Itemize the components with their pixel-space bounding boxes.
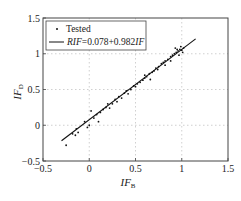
data-point [93,117,95,119]
legend-label-tested: Tested [66,24,91,34]
data-point [170,60,172,62]
data-point [109,107,111,109]
data-point [135,86,137,88]
y-tick-label: 1.5 [28,13,41,24]
data-point [127,93,129,95]
data-point [107,103,109,105]
scatter-chart: −0.500.511.5 −0.500.511.5 IFB IFD Tested… [0,0,241,201]
legend-label-fit: RIF=0.078+0.982IF [66,37,144,47]
data-point [87,126,89,128]
x-tick-label: 0.5 [129,163,142,174]
data-point [176,49,178,51]
x-tick-label: 1 [179,163,184,174]
x-tick-label: 0 [87,163,92,174]
data-point [174,47,176,49]
y-axis-label: IFD [11,84,25,100]
data-point [88,124,90,126]
x-axis-ticks: −0.500.511.5 [34,158,234,174]
y-tick-label: 0.5 [28,84,41,95]
y-tick-label: 1 [35,48,40,59]
data-point [149,79,151,81]
data-point [65,144,67,146]
data-point [178,54,180,56]
y-axis-ticks: −0.500.511.5 [22,13,46,167]
data-point [180,46,182,48]
data-point [98,121,100,123]
data-point [164,64,166,66]
data-point [90,110,92,112]
data-point [74,134,76,136]
data-point [144,74,146,76]
data-point [182,51,184,53]
legend: Tested RIF=0.078+0.982IF [46,21,146,50]
data-point [121,97,123,99]
x-tick-label: 1.5 [222,163,235,174]
legend-marker-dot-icon [56,28,58,30]
data-point [116,101,118,103]
y-tick-label: 0 [35,120,40,131]
y-tick-label: −0.5 [22,156,40,167]
data-point [77,132,79,134]
x-axis-label: IFB [119,176,135,190]
